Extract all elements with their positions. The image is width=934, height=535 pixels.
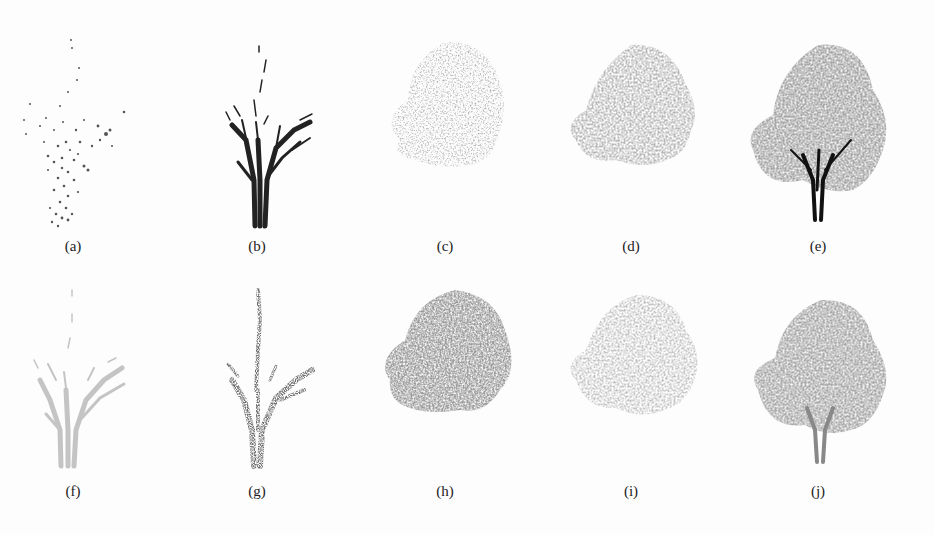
panel-a: (a) [0,30,158,260]
panel-b: (b) [172,30,342,260]
panel-d: (d) [546,30,716,260]
panel-label: (i) [546,483,716,500]
panel-label: (e) [733,238,903,255]
panel-label: (b) [172,238,342,255]
tree-point-cloud-dark-image [172,280,342,480]
panel-e: (e) [733,30,903,260]
foliage-image [546,30,716,230]
panel-g: (g) [172,280,342,510]
panel-label: (f) [0,483,158,500]
full-tree-light-image [733,280,903,480]
panel-label: (a) [0,238,158,255]
panel-h: (h) [360,280,530,510]
panel-c: (c) [360,30,530,260]
dense-foliage-image [360,280,530,480]
panel-f: (f) [0,280,158,510]
panel-j: (j) [733,280,903,510]
panel-label: (d) [546,238,716,255]
foliage-light-image [546,280,716,480]
tree-point-cloud-image [0,30,158,230]
panel-label: (c) [360,238,530,255]
panel-label: (j) [733,483,903,500]
tree-skeleton-light-image [0,280,158,480]
tree-reconstruction-figure: (a) (b) [0,0,934,535]
panel-label: (g) [172,483,342,500]
full-tree-image [733,30,903,230]
panel-i: (i) [546,280,716,510]
tree-skeleton-image [172,30,342,230]
sparse-foliage-image [360,30,530,230]
panel-label: (h) [360,483,530,500]
